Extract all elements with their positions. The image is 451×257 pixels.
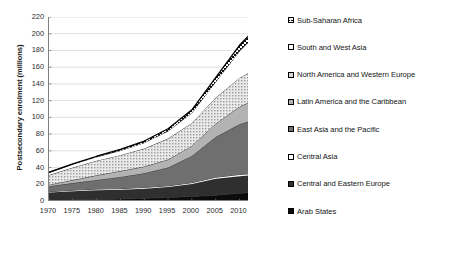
legend-label: Central Asia bbox=[297, 152, 337, 161]
y-tick-label: 20 bbox=[20, 180, 44, 188]
legend-item[interactable]: Central and Eastern Europe bbox=[288, 178, 390, 190]
legend-label: Arab States bbox=[297, 207, 336, 216]
legend-item[interactable]: East Asia and the Pacific bbox=[288, 123, 379, 135]
legend-label: North America and Western Europe bbox=[297, 70, 415, 79]
legend-swatch-icon bbox=[288, 72, 294, 78]
plot-area bbox=[48, 17, 248, 201]
legend-label: South and West Asia bbox=[297, 43, 366, 52]
y-tick-label: 80 bbox=[20, 130, 44, 138]
y-tick-label: 120 bbox=[20, 97, 44, 105]
legend-label: Central and Eastern Europe bbox=[297, 179, 390, 188]
y-tick-label: 200 bbox=[20, 30, 44, 38]
legend-item[interactable]: Central Asia bbox=[288, 151, 337, 163]
y-tick-label: 0 bbox=[20, 197, 44, 205]
legend-item[interactable]: South and West Asia bbox=[288, 41, 366, 53]
legend-item[interactable]: North America and Western Europe bbox=[288, 69, 415, 81]
chart-legend: Sub-Saharan AfricaSouth and West AsiaNor… bbox=[288, 14, 448, 234]
legend-swatch-icon bbox=[288, 208, 294, 214]
legend-swatch-icon bbox=[288, 44, 294, 50]
y-tick-label: 140 bbox=[20, 80, 44, 88]
y-tick-label: 100 bbox=[20, 113, 44, 121]
legend-swatch-icon bbox=[288, 17, 294, 23]
legend-label: Sub-Saharan Africa bbox=[297, 16, 362, 25]
y-tick-label: 160 bbox=[20, 63, 44, 71]
x-tick-label: 2010 bbox=[223, 206, 253, 215]
legend-label: Latin America and the Caribbean bbox=[297, 97, 406, 106]
legend-swatch-icon bbox=[288, 99, 294, 105]
legend-swatch-icon bbox=[288, 126, 294, 132]
y-tick-label: 180 bbox=[20, 46, 44, 54]
y-tick-label: 220 bbox=[20, 13, 44, 21]
y-tick-label: 40 bbox=[20, 164, 44, 172]
area-series-group bbox=[49, 35, 248, 201]
chart-container: Postsecondary enrolment (millions) 02040… bbox=[0, 0, 451, 257]
legend-swatch-icon bbox=[288, 154, 294, 160]
stacked-area-svg bbox=[49, 17, 248, 201]
legend-item[interactable]: Latin America and the Caribbean bbox=[288, 96, 406, 108]
legend-item[interactable]: Sub-Saharan Africa bbox=[288, 14, 362, 26]
y-axis-tick-labels: 020406080100120140160180200220 bbox=[16, 0, 44, 257]
legend-item[interactable]: Arab States bbox=[288, 205, 336, 217]
legend-swatch-icon bbox=[288, 181, 294, 187]
y-tick-label: 60 bbox=[20, 147, 44, 155]
legend-label: East Asia and the Pacific bbox=[297, 125, 379, 134]
